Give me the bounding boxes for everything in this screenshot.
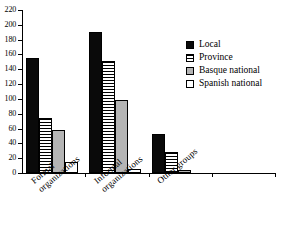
legend-label-basque-national: Basque national: [199, 64, 260, 77]
plot-area: 020406080100120140160180200220: [22, 10, 275, 173]
y-tick-label: 60: [8, 125, 16, 133]
y-tick-mark: [18, 129, 22, 130]
bar-local-group-2: [89, 32, 102, 173]
legend-label-spanish-national: Spanish national: [199, 77, 262, 90]
legend-item-local: Local: [186, 38, 262, 51]
bar-local-group-1: [26, 58, 39, 173]
bar-chart: 020406080100120140160180200220 Formalorg…: [0, 0, 284, 245]
x-tick-mark: [85, 173, 86, 177]
y-tick-mark: [18, 40, 22, 41]
y-tick-label: 160: [5, 50, 16, 58]
y-tick-mark: [18, 173, 22, 174]
chart-legend: Local Province Basque national Spanish n…: [186, 38, 262, 90]
y-tick-label: 180: [5, 36, 16, 44]
legend-label-province: Province: [199, 51, 233, 64]
legend-swatch-spanish-national-icon: [186, 80, 194, 88]
y-tick-mark: [18, 69, 22, 70]
y-tick-mark: [18, 84, 22, 85]
legend-swatch-province-icon: [186, 54, 194, 62]
y-tick-mark: [18, 143, 22, 144]
legend-item-province: Province: [186, 51, 262, 64]
y-tick-label: 20: [8, 154, 16, 162]
y-tick-label: 220: [5, 6, 16, 14]
y-tick-mark: [18, 10, 22, 11]
y-tick-mark: [18, 114, 22, 115]
legend-item-spanish-national: Spanish national: [186, 77, 262, 90]
y-tick-label: 80: [8, 110, 16, 118]
y-tick-mark: [18, 99, 22, 100]
bar-province-group-2: [102, 61, 115, 173]
y-tick-mark: [18, 25, 22, 26]
y-tick-label: 120: [5, 80, 16, 88]
y-tick-label: 100: [5, 95, 16, 103]
x-tick-mark: [275, 173, 276, 177]
y-tick-label: 40: [8, 139, 16, 147]
y-tick-mark: [18, 158, 22, 159]
bar-local-group-3: [152, 134, 165, 173]
x-tick-mark: [212, 173, 213, 177]
legend-item-basque-national: Basque national: [186, 64, 262, 77]
legend-swatch-local-icon: [186, 41, 194, 49]
legend-swatch-basque-national-icon: [186, 67, 194, 75]
y-tick-label: 140: [5, 65, 16, 73]
y-tick-label: 0: [12, 169, 16, 177]
y-tick-label: 200: [5, 21, 16, 29]
legend-label-local: Local: [199, 38, 221, 51]
y-tick-mark: [18, 54, 22, 55]
x-tick-mark: [149, 173, 150, 177]
y-axis-line: [22, 10, 23, 173]
